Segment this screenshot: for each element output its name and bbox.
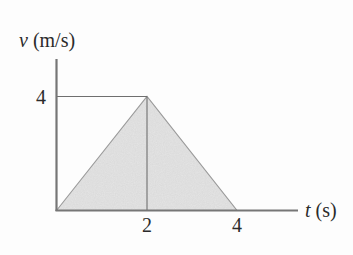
y-axis-unit: (m/s): [33, 29, 75, 51]
x-axis-label: t (s): [305, 200, 337, 220]
velocity-time-figure: v (m/s) t (s) 4 2 4: [0, 0, 353, 255]
y-axis-variable: v: [19, 29, 28, 51]
x-axis-unit: (s): [316, 199, 337, 221]
y-tick-label-4: 4: [24, 87, 46, 107]
x-tick-label-4: 4: [226, 215, 248, 235]
y-axis-label: v (m/s): [19, 30, 75, 50]
x-tick-label-2: 2: [136, 215, 158, 235]
